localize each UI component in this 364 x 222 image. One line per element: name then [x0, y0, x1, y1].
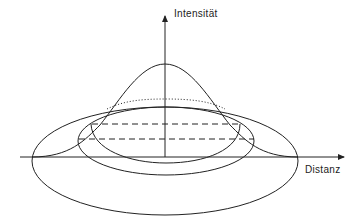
y-axis-label: Intensität	[174, 8, 218, 19]
x-axis-label: Distanz	[305, 164, 340, 175]
middle-ellipse	[78, 107, 254, 175]
diagram-canvas	[0, 0, 364, 222]
intensity-distance-diagram: Intensität Distanz	[0, 0, 364, 222]
